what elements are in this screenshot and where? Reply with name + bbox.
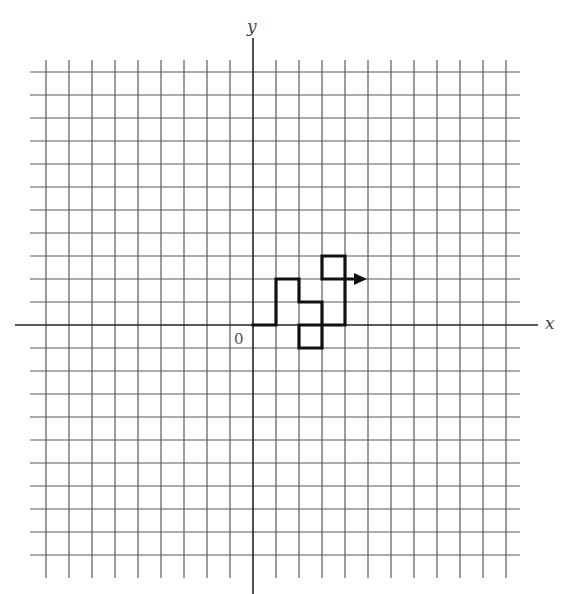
x-axis-label: x	[545, 313, 555, 333]
origin-label: 0	[234, 330, 244, 348]
grid-diagram	[0, 0, 563, 594]
arrowhead-icon	[354, 273, 367, 285]
y-axis-label: y	[247, 16, 257, 36]
